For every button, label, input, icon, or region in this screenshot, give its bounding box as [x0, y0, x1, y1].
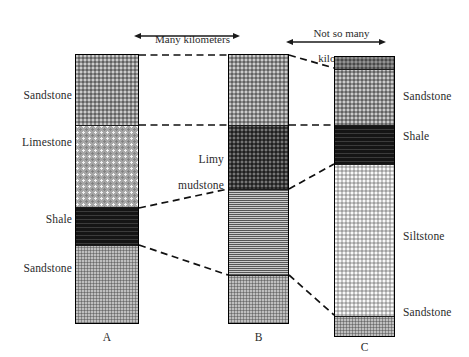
- scale-many-line1: Many kilometers: [155, 33, 230, 45]
- column-c-layer-shale: [335, 125, 394, 164]
- column-b-layer-sandstone-top: [229, 55, 288, 125]
- column-b-letter: B: [228, 331, 289, 343]
- column-b-bed-divider-2: [229, 189, 288, 190]
- column-a-layer-limestone: [76, 125, 138, 207]
- column-a: [75, 54, 139, 324]
- column-c-bed-divider-2: [335, 125, 394, 126]
- label-a-sandstone-top: Sandstone: [0, 89, 72, 102]
- column-c-bed-divider-4: [335, 316, 394, 317]
- column-a-bed-divider-2: [76, 207, 138, 208]
- column-a-layer-shale: [76, 207, 138, 245]
- stratigraphic-correlation-figure: Many kilometers Not so many kilometers S…: [0, 0, 469, 357]
- column-c-letter: C: [334, 341, 395, 353]
- correlation-lines-b-c: [289, 55, 334, 315]
- label-a-limestone: Limestone: [0, 136, 72, 149]
- column-a-bed-divider-1: [76, 125, 138, 126]
- column-b: [228, 54, 289, 324]
- column-c-layer-sandstone-bottom: [335, 316, 394, 337]
- label-b-limy-mudstone-line2: mudstone: [178, 179, 224, 191]
- column-a-bed-divider-3: [76, 245, 138, 246]
- column-a-letter: A: [75, 331, 139, 343]
- label-b-limy-mudstone-line1: Limy: [198, 153, 224, 165]
- column-b-bed-divider-3: [229, 275, 288, 276]
- column-b-layer-limy-mudstone: [229, 125, 288, 189]
- label-b-limy-mudstone: Limy mudstone: [145, 140, 224, 205]
- label-c-siltstone: Siltstone: [403, 230, 469, 243]
- correlation-line-bc-third: [289, 164, 334, 189]
- column-a-layer-sandstone-top: [76, 55, 138, 125]
- column-c-layer-cap-bed: [335, 57, 394, 69]
- label-a-shale: Shale: [0, 213, 72, 226]
- correlation-line-bc-fourth: [289, 275, 334, 315]
- label-a-sandstone-bottom: Sandstone: [0, 262, 72, 275]
- column-a-layer-sandstone-bottom: [76, 245, 138, 324]
- label-c-sandstone-top: Sandstone: [403, 90, 469, 103]
- column-c-layer-siltstone: [335, 164, 394, 316]
- column-c: [334, 56, 395, 337]
- column-c-bed-divider-3: [335, 164, 394, 165]
- scale-label-many-kilometers: Many kilometers: [131, 20, 243, 58]
- scale-notmany-line1: Not so many: [313, 27, 369, 39]
- column-b-layer-sandstone-bottom: [229, 275, 288, 324]
- label-c-sandstone-bottom: Sandstone: [403, 306, 469, 319]
- correlation-line-ab-shale-bot: [139, 245, 228, 275]
- column-b-bed-divider-1: [229, 125, 288, 126]
- column-b-layer-mudstone: [229, 189, 288, 275]
- column-c-layer-sandstone-top: [335, 69, 394, 125]
- column-c-bed-divider-1: [335, 69, 394, 70]
- label-c-shale: Shale: [403, 130, 469, 143]
